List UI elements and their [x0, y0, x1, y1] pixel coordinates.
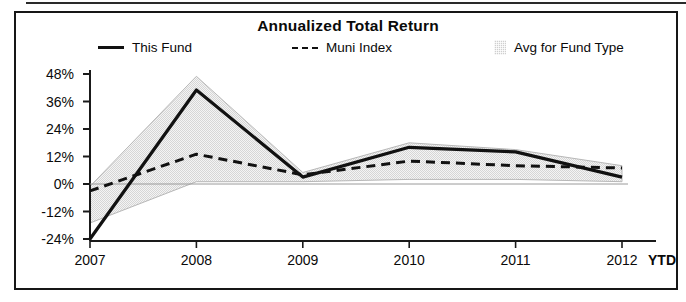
x-axis-tick-label: 2009 [287, 252, 318, 268]
avg-for-fund-type-band [90, 76, 622, 223]
x-axis-tick-label: 2012 [606, 252, 637, 268]
y-axis-tick-label: 36% [22, 94, 74, 110]
plot-svg [16, 13, 680, 292]
y-axis-tick-label: 12% [22, 149, 74, 165]
y-axis-tick-label: 24% [22, 121, 74, 137]
plot-area: 48%36%24%12%0%-12%-24% 20072008200920102… [16, 13, 680, 292]
y-axis-tick-label: 0% [22, 176, 74, 192]
x-axis-tick-label: 2008 [181, 252, 212, 268]
chart-frame: Annualized Total Return This Fund Muni I… [14, 11, 678, 290]
x-axis-tick-label: 2010 [394, 252, 425, 268]
y-axis-tick-label: -12% [22, 204, 74, 220]
x-axis-tick-label: 2011 [501, 252, 531, 268]
x-axis-ytd-label: YTD [648, 252, 676, 268]
chart-screenshot: Annualized Total Return This Fund Muni I… [0, 0, 686, 302]
x-axis-tick-label: 2007 [74, 252, 105, 268]
y-axis-tick-label: -24% [22, 231, 74, 247]
y-axis-tick-label: 48% [22, 66, 74, 82]
page-top-rule [26, 2, 686, 4]
